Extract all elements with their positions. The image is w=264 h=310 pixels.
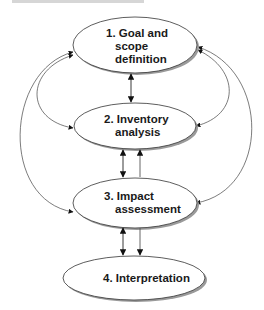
lca-diagram: 1. Goal and scope definition 2. Inventor…: [0, 0, 264, 310]
node-interpretation-line1: 4. Interpretation: [103, 272, 190, 284]
node-inventory-line2: analysis: [115, 126, 160, 138]
node-inventory: 2. Inventory analysis: [74, 103, 198, 151]
node-impact-line1: 3. Impact: [104, 190, 154, 202]
node-goal-scope: 1. Goal and scope definition: [73, 17, 199, 75]
node-impact: 3. Impact assessment: [73, 178, 199, 230]
node-inventory-line1: 2. Inventory: [104, 113, 169, 125]
arc-right-inner: [196, 50, 229, 126]
node-goal-line2: scope: [115, 40, 148, 52]
arc-left-inner: [37, 55, 73, 128]
node-interpretation: 4. Interpretation: [63, 256, 207, 302]
arc-right-outer: [196, 47, 252, 203]
node-goal-line1: 1. Goal and: [106, 27, 168, 39]
node-impact-line2: assessment: [115, 203, 181, 215]
node-goal-line3: definition: [115, 53, 167, 65]
arc-left-outer: [20, 52, 73, 212]
